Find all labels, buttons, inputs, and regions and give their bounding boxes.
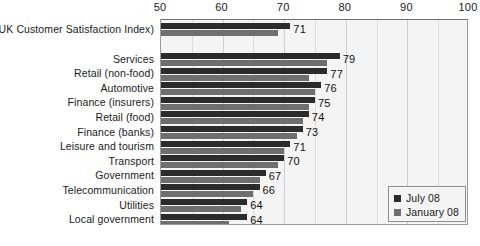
category-label: Local government [69,213,154,225]
bar-january-08 [161,104,309,110]
bar-july-08 [161,23,290,29]
bar-january-08 [161,118,303,124]
legend-swatch-icon [394,209,401,216]
x-axis-tick-70: 70 [277,1,290,13]
legend-entry: July 08 [394,191,458,205]
data-label: 79 [343,53,356,65]
bar-july-08 [161,111,309,117]
bar-july-08 [161,53,340,59]
x-axis-tick-50: 50 [154,1,167,13]
category-label: Services [113,53,154,65]
bar-january-08 [161,177,260,183]
bar-july-08 [161,214,247,220]
bar-january-08 [161,89,315,95]
bar-january-08 [161,60,327,66]
legend-label: July 08 [406,192,440,204]
legend-entry: January 08 [394,205,458,219]
data-label: 73 [306,126,319,138]
bar-january-08 [161,75,309,81]
legend-swatch-icon [394,195,401,202]
data-label: 66 [263,184,276,196]
bar-july-08 [161,68,327,74]
data-label: 64 [250,199,263,211]
bar-group [161,141,467,154]
chart-legend: July 08January 08 [388,186,466,222]
category-label: Government [95,169,154,181]
bar-group [161,97,467,110]
bar-january-08 [161,206,241,212]
bar-january-08 [161,133,297,139]
bar-group [161,53,467,66]
x-axis-tick-60: 60 [215,1,228,13]
bar-january-08 [161,221,229,225]
category-label: Utilities [119,199,154,211]
category-label: Finance (insurers) [68,96,154,108]
bar-july-08 [161,82,321,88]
category-label: Finance (banks) [77,126,154,138]
category-labels: UKCSI (UK Customer Satisfaction Index)Se… [0,19,157,225]
bar-july-08 [161,141,290,147]
bar-january-08 [161,148,284,154]
bar-july-08 [161,97,315,103]
data-label: 75 [318,97,331,109]
category-label: Retail (food) [96,111,155,123]
legend-label: January 08 [406,206,459,218]
bar-july-08 [161,155,284,161]
bar-group [161,82,467,95]
category-label: Leisure and tourism [60,140,154,152]
bar-january-08 [161,30,278,36]
x-axis-tick-80: 80 [338,1,351,13]
bar-group [161,68,467,81]
bar-january-08 [161,191,253,197]
x-axis-tick-100: 100 [459,1,478,13]
bar-january-08 [161,162,278,168]
data-label: 76 [324,82,337,94]
category-label: Telecommunication [62,184,154,196]
data-label: 74 [312,111,325,123]
category-label: UKCSI (UK Customer Satisfaction Index) [0,23,154,35]
data-label: 77 [330,68,343,80]
data-label: 71 [293,23,306,35]
data-label: 70 [287,155,300,167]
bar-july-08 [161,126,303,132]
bar-july-08 [161,199,247,205]
bar-group [161,155,467,168]
bar-group [161,170,467,183]
data-label: 67 [269,170,282,182]
data-label: 71 [293,141,306,153]
category-label: Automotive [100,82,154,94]
x-axis-tick-90: 90 [400,1,413,13]
bar-group [161,23,467,36]
bar-july-08 [161,170,266,176]
category-label: Retail (non-food) [74,67,154,79]
bar-july-08 [161,184,260,190]
ukcsi-bar-chart: 5060708090100 UKCSI (UK Customer Satisfa… [0,0,480,246]
x-axis: 5060708090100 [0,0,480,20]
data-label: 64 [250,214,263,226]
category-label: Transport [109,155,154,167]
